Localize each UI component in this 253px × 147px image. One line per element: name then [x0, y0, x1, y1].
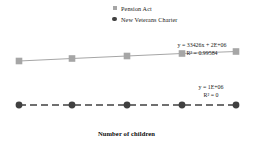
data-point — [16, 102, 23, 109]
trendline-annotation-pension-act: y = 33426x + 2E+06 R² = 0.99584 — [163, 42, 241, 57]
chart-container: Pension Act New Veterans Charter — [0, 0, 253, 147]
trendline-equation-new-veterans-charter: y = 1E+06 — [182, 84, 240, 92]
series-new-veterans-charter — [16, 102, 240, 109]
data-point — [69, 102, 76, 109]
data-point — [69, 55, 76, 62]
data-point — [124, 53, 131, 60]
data-point — [233, 102, 240, 109]
x-axis-title: Number of children — [0, 130, 253, 137]
trendline-r2-new-veterans-charter: R² = 0 — [182, 92, 240, 100]
trendline-annotation-new-veterans-charter: y = 1E+06 R² = 0 — [182, 84, 240, 99]
trendline-r2-pension-act: R² = 0.99584 — [163, 50, 241, 58]
data-point — [16, 58, 23, 65]
data-point — [124, 102, 131, 109]
plot-area — [0, 0, 253, 147]
data-point — [179, 102, 186, 109]
trendline-equation-pension-act: y = 33426x + 2E+06 — [163, 42, 241, 50]
